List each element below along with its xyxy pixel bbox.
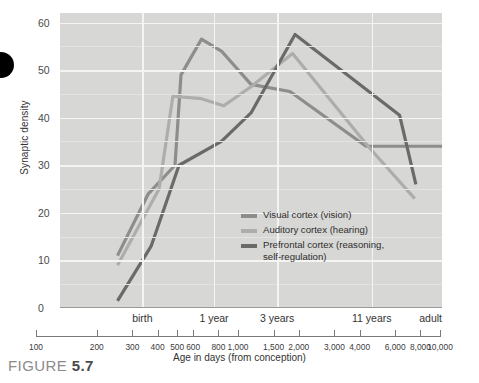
legend-swatch-prefrontal [241, 244, 257, 248]
scale-tick-label-6,000: 6,000 [385, 342, 406, 352]
scale-tick-label-500: 500 [170, 342, 184, 352]
scale-tick-500 [177, 330, 178, 337]
x-category-3-years: 3 years [260, 312, 294, 324]
legend-label-auditory: Auditory cortex (hearing) [263, 224, 368, 236]
legend-item-auditory: Auditory cortex (hearing) [241, 224, 384, 236]
scale-tick-label-1,500: 1,500 [263, 342, 284, 352]
scale-tick-label-4,000: 4,000 [349, 342, 370, 352]
gridline-h-minor-45 [60, 94, 442, 95]
gridline-h-minor-5 [60, 284, 442, 285]
x-category-birth: birth [132, 312, 152, 324]
scale-tick-label-800: 800 [211, 342, 225, 352]
scale-tick-6,000 [395, 330, 396, 337]
scale-tick-8,000 [420, 330, 421, 337]
scale-tick-200 [97, 330, 98, 337]
legend-item-visual: Visual cortex (vision) [241, 209, 384, 221]
gridline-h-30 [60, 165, 442, 167]
page-bullet-decoration [0, 52, 14, 78]
y-tick-50: 50 [38, 64, 62, 76]
scale-tick-2,000 [299, 330, 300, 337]
figure-5-7: Synaptic density 6050403020100 Visual co… [0, 0, 479, 383]
legend-label-visual: Visual cortex (vision) [263, 209, 351, 221]
plot-area: Visual cortex (vision) Auditory cortex (… [60, 13, 442, 308]
scale-tick-label-1,000: 1,000 [228, 342, 249, 352]
gridline-h-60 [60, 23, 442, 25]
scale-tick-3,000 [334, 330, 335, 337]
scale-tick-100 [36, 330, 37, 337]
y-tick-40: 40 [38, 112, 62, 124]
scale-tick-label-300: 300 [125, 342, 139, 352]
gridline-h-50 [60, 70, 442, 72]
gridline-v-1-year [214, 13, 216, 308]
scale-tick-800 [218, 330, 219, 337]
scale-tick-400 [158, 330, 159, 337]
scale-tick-label-600: 600 [186, 342, 200, 352]
gridline-h-minor-55 [60, 46, 442, 47]
scale-tick-label-100: 100 [29, 342, 43, 352]
gridline-h-minor-35 [60, 141, 442, 142]
y-tick-30: 30 [38, 159, 62, 171]
y-tick-10: 10 [38, 254, 62, 266]
scale-tick-label-400: 400 [151, 342, 165, 352]
scale-tick-label-3,000: 3,000 [324, 342, 345, 352]
gridline-h-minor-25 [60, 189, 442, 190]
legend-swatch-auditory [241, 229, 257, 233]
scale-tick-label-2,000: 2,000 [288, 342, 309, 352]
scale-tick-4,000 [360, 330, 361, 337]
legend-label-prefrontal: Prefrontal cortex (reasoning,self-regula… [263, 239, 384, 262]
scale-tick-1,000 [238, 330, 239, 337]
legend-item-prefrontal: Prefrontal cortex (reasoning,self-regula… [241, 239, 384, 262]
chart-legend: Visual cortex (vision) Auditory cortex (… [241, 209, 384, 266]
y-axis-label: Synaptic density [19, 78, 30, 198]
scale-tick-600 [193, 330, 194, 337]
y-tick-0: 0 [38, 302, 62, 314]
y-tick-20: 20 [38, 207, 62, 219]
gridline-h-40 [60, 118, 442, 120]
x-category-1-year: 1 year [199, 312, 228, 324]
y-tick-60: 60 [38, 17, 62, 29]
scale-tick-label-200: 200 [90, 342, 104, 352]
x-category-adult: adult [419, 312, 442, 324]
gridline-v-birth [142, 13, 144, 308]
figure-caption-prefix: FIGURE [8, 357, 72, 374]
figure-caption: FIGURE 5.7 [8, 357, 94, 374]
x-axis-line [60, 307, 442, 308]
figure-caption-number: 5.7 [72, 357, 94, 374]
legend-swatch-visual [241, 214, 257, 218]
scale-tick-10,000 [440, 330, 441, 337]
scale-tick-label-10,000: 10,000 [427, 342, 453, 352]
scale-tick-1,500 [274, 330, 275, 337]
scale-tick-300 [132, 330, 133, 337]
x-category-11-years: 11 years [352, 312, 392, 324]
